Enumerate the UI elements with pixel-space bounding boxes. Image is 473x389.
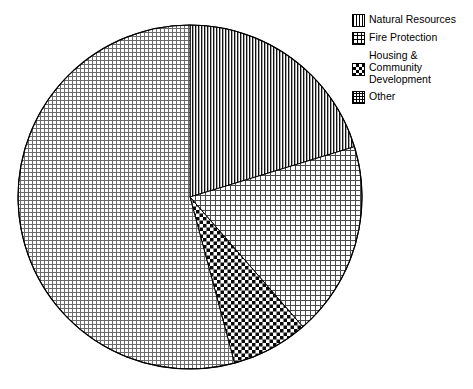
legend-item-label: Fire Protection [369,31,437,43]
checkerboard-swatch-icon [352,63,365,76]
legend-item-other[interactable]: Other [352,90,473,104]
grid-coarse-swatch-icon [352,32,365,45]
legend-item-fire-protection[interactable]: Fire Protection [352,31,473,45]
legend-item-label: Natural Resources [369,13,456,25]
chart-legend: Natural Resources Fire Protection Housin… [352,13,473,108]
legend-item-housing-community-development[interactable]: Housing & Community Development [352,49,473,85]
legend-item-natural-resources[interactable]: Natural Resources [352,13,473,27]
legend-item-label: Other [369,90,395,102]
legend-item-label: Housing & Community Development [369,49,431,85]
pie-slice-group [18,25,362,369]
pie-chart-figure: Natural Resources Fire Protection Housin… [0,0,473,389]
vertical-stripes-swatch-icon [352,14,365,27]
grid-fine-swatch-icon [352,91,365,104]
